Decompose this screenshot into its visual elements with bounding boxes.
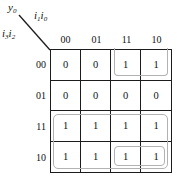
kmap-cell-r00-c01: 0 [81,50,111,81]
kmap-cell-r10-c01: 1 [81,142,111,173]
row-header-10: 10 [24,142,46,173]
kmap-cell-r00-c11: 1 [111,50,141,81]
kmap-cell-r00-c10: 1 [141,50,171,81]
kmap-cell-r11-c10: 1 [141,111,171,142]
row-header-11: 11 [24,111,46,142]
kmap-cell-r01-c00: 0 [51,81,81,112]
column-axis-var2-sub: 0 [44,15,48,23]
kmap-grid: 0 0 1 1 0 0 0 0 1 1 1 1 1 1 1 1 [50,49,172,173]
kmap-cell-r11-c11: 1 [111,111,141,142]
col-header-10: 10 [141,33,172,46]
kmap-cell-r01-c11: 0 [111,81,141,112]
kmap-cell-r10-c11: 1 [111,142,141,173]
row-header-00: 00 [24,49,46,80]
kmap-cell-r10-c00: 1 [51,142,81,173]
output-label-sub: 0 [13,7,17,15]
output-label: y0 [8,1,16,13]
kmap-cell-r11-c01: 1 [81,111,111,142]
row-axis-var2-sub: 2 [12,33,16,41]
kmap-cell-r10-c10: 1 [141,142,171,173]
kmap-cell-r01-c10: 0 [141,81,171,112]
kmap-cell-r01-c01: 0 [81,81,111,112]
col-header-00: 00 [50,33,81,46]
kmap-cell-r00-c00: 0 [51,50,81,81]
col-header-01: 01 [81,33,112,46]
kmap-diagram: y0 i1i0 i3i2 00 01 11 10 00 01 11 10 0 0… [0,0,177,181]
column-axis-label: i1i0 [34,9,47,21]
row-header-01: 01 [24,80,46,111]
kmap-cell-r11-c00: 1 [51,111,81,142]
row-axis-label: i3i2 [2,27,15,39]
col-header-11: 11 [111,33,142,46]
